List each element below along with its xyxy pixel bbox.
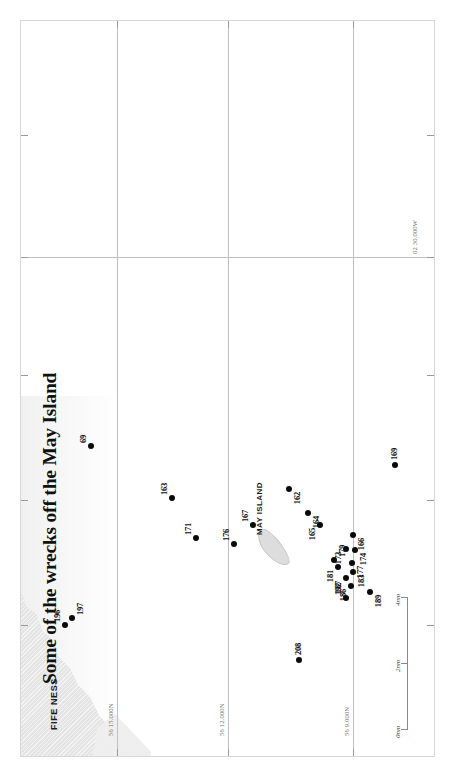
wreck-label: 176	[221, 529, 231, 541]
fife-ness-label: FIFE NESS	[49, 678, 59, 730]
scale-tick-label: 2nm	[394, 660, 402, 672]
wreck-label: 208	[293, 643, 303, 655]
wreck-label: 169	[389, 448, 399, 460]
wreck-label: 173	[333, 552, 343, 564]
inlet-shading	[91, 671, 151, 757]
wreck-dot-icon	[392, 462, 398, 468]
wreck-label: 165	[307, 528, 317, 540]
graticule-tick	[228, 21, 229, 28]
may-island-label: MAY ISLAND	[255, 482, 264, 535]
latitude-label: 56 15.000N	[107, 703, 114, 736]
graticule-tick	[21, 625, 28, 626]
scale-tick-label: 0nm	[394, 726, 402, 738]
wreck-dot-icon	[88, 443, 94, 449]
graticule-tick	[21, 375, 28, 376]
graticule-tick	[353, 749, 354, 756]
wreck-dot-icon	[193, 535, 199, 541]
wreck-label: 189	[373, 595, 383, 607]
wreck-dot-icon	[169, 495, 175, 501]
scale-bar	[407, 598, 408, 730]
scale-tick-label: 4nm	[394, 594, 402, 606]
graticule-tick	[427, 500, 434, 501]
wreck-label: 162	[292, 492, 302, 504]
wreck-label: 181	[325, 570, 335, 582]
wreck-dot-icon	[231, 541, 237, 547]
latitude-gridline	[117, 21, 118, 756]
wreck-dot-icon	[343, 575, 349, 581]
wreck-label: 163	[159, 483, 169, 495]
graticule-tick	[117, 21, 118, 28]
wreck-label: 196	[52, 610, 62, 622]
wreck-label: 69	[78, 435, 88, 443]
scale-tick	[401, 597, 408, 598]
scale-tick	[401, 663, 408, 664]
wreck-label: 166	[356, 538, 366, 550]
nautical-chart: FIFE NESS Some of the wrecks off the May…	[20, 20, 435, 757]
wreck-label: 174	[358, 553, 368, 565]
wreck-label: 167	[240, 510, 250, 522]
wreck-label: 171	[183, 523, 193, 535]
longitude-label: 02 30.000W	[411, 220, 418, 254]
graticule-tick	[21, 257, 28, 258]
wreck-label: 197	[75, 603, 85, 615]
graticule-tick	[427, 135, 434, 136]
graticule-tick	[21, 500, 28, 501]
wreck-label: 177	[355, 566, 365, 578]
graticule-tick	[427, 625, 434, 626]
wreck-label: 187	[333, 581, 343, 593]
rotated-map-container: FIFE NESS Some of the wrecks off the May…	[20, 20, 435, 757]
wreck-dot-icon	[296, 657, 302, 663]
wreck-dot-icon	[69, 615, 75, 621]
wreck-dot-icon	[343, 546, 349, 552]
graticule-tick	[353, 21, 354, 28]
graticule-tick	[117, 749, 118, 756]
latitude-gridline	[228, 21, 229, 756]
latitude-label: 56 9.000N	[343, 707, 350, 736]
wreck-dot-icon	[335, 564, 341, 570]
chart-page: FIFE NESS Some of the wrecks off the May…	[0, 0, 455, 777]
longitude-gridline	[21, 257, 434, 258]
scale-tick	[401, 729, 408, 730]
chart-title: Some of the wrecks off the May Island	[39, 373, 61, 684]
graticule-tick	[427, 375, 434, 376]
latitude-label: 56 12.000N	[218, 703, 225, 736]
graticule-tick	[228, 749, 229, 756]
latitude-gridline	[353, 21, 354, 756]
wreck-dot-icon	[317, 522, 323, 528]
graticule-tick	[427, 257, 434, 258]
wreck-dot-icon	[62, 622, 68, 628]
graticule-tick	[21, 135, 28, 136]
